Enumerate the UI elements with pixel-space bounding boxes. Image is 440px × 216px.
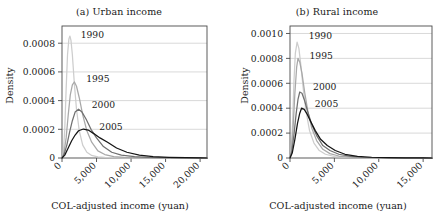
x-tick-label: 10,000 xyxy=(102,160,133,191)
plot-frame xyxy=(62,26,207,158)
y-tick-label: 0.0008 xyxy=(23,38,55,49)
y-tick-label: 0.0004 xyxy=(23,95,55,106)
series-annotation-2005: 2005 xyxy=(315,98,339,109)
y-tick-label: 0.0006 xyxy=(23,66,55,77)
x-tick-label: 15,000 xyxy=(394,160,425,191)
series-annotation-1990: 1990 xyxy=(81,29,105,40)
series-annotation-1990: 1990 xyxy=(309,30,333,41)
x-tick-label: 20,000 xyxy=(171,160,202,191)
x-tick-label: 5,000 xyxy=(309,160,335,186)
density-curve-2005 xyxy=(62,129,207,158)
series-annotation-1995: 1995 xyxy=(310,50,334,61)
series-annotation-2000: 2000 xyxy=(313,81,337,92)
series-annotation-2000: 2000 xyxy=(92,99,116,110)
y-tick-label: 0.0002 xyxy=(23,124,55,135)
x-tick-label: 10,000 xyxy=(350,160,381,191)
chart-panel-rural-income: (b) Rural income Density 00.00020.00040.… xyxy=(220,0,440,216)
chart-panel-urban-income: (a) Urban income Density 00.00020.00040.… xyxy=(0,0,220,216)
series-annotation-1995: 1995 xyxy=(86,73,110,84)
x-tick-label: 15,000 xyxy=(136,160,167,191)
plot-area-rural: 00.00020.00040.00060.00080.001005,00010,… xyxy=(220,0,440,216)
y-tick-label: 0.0008 xyxy=(251,53,283,64)
x-axis-label-rural: COL-adjusted income (yuan) xyxy=(220,200,440,211)
y-tick-label: 0.0004 xyxy=(251,102,283,113)
y-tick-label: 0.0006 xyxy=(251,78,283,89)
series-annotation-2005: 2005 xyxy=(99,121,123,132)
y-tick-label: 0.0002 xyxy=(251,127,283,138)
x-axis-label-urban: COL-adjusted income (yuan) xyxy=(0,200,220,211)
plot-frame xyxy=(290,26,432,158)
y-tick-label: 0.0010 xyxy=(251,28,283,39)
density-curve-1990 xyxy=(62,36,207,158)
plot-area-urban: 00.00020.00040.00060.000805,00010,00015,… xyxy=(0,0,220,216)
x-tick-label: 5,000 xyxy=(72,160,98,186)
figure-container: (a) Urban income Density 00.00020.00040.… xyxy=(0,0,440,216)
